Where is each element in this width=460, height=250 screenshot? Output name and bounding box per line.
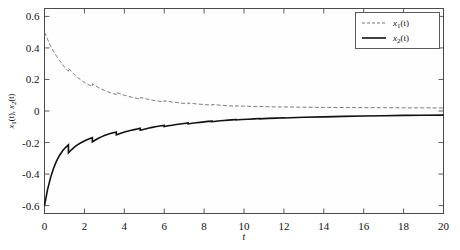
x-tick-label: 0 [42, 220, 48, 232]
y-axis-title: x1(t), x2(t) [6, 93, 18, 129]
figure-container: 02468101214161820 -0.6-0.4-0.200.20.40.6… [0, 0, 460, 250]
y-axis-tick-labels: -0.6-0.4-0.200.20.40.6 [22, 10, 40, 211]
legend[interactable]: x1(t) x2(t) [356, 13, 440, 49]
y-tick-label: 0 [34, 105, 40, 117]
y-tick-label: -0.6 [22, 200, 40, 212]
chart-svg: 02468101214161820 -0.6-0.4-0.200.20.40.6… [0, 0, 460, 250]
x-axis-title: t [243, 231, 246, 242]
x-tick-label: 16 [358, 220, 370, 232]
y-tick-label: 0.2 [26, 73, 40, 85]
x-tick-label: 10 [239, 220, 251, 232]
x-tick-label: 20 [438, 220, 450, 232]
y-tick-label: -0.4 [22, 168, 40, 180]
x-tick-label: 8 [201, 220, 207, 232]
y-tick-label: 0.4 [26, 42, 40, 54]
x-tick-label: 18 [398, 220, 410, 232]
x-tick-label: 4 [122, 220, 128, 232]
x-axis-tick-labels: 02468101214161820 [42, 220, 450, 232]
x-tick-label: 6 [161, 220, 167, 232]
x-tick-label: 2 [82, 220, 88, 232]
y-tick-label: -0.2 [22, 137, 39, 149]
x-tick-label: 12 [278, 220, 289, 232]
y-tick-label: 0.6 [26, 10, 40, 22]
y-axis-title-text: x1(t), x2(t) [6, 93, 18, 129]
x-tick-label: 14 [318, 220, 330, 232]
